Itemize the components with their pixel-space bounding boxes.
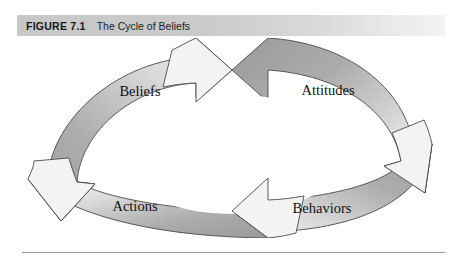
cycle-label-beliefs: Beliefs [119,83,160,99]
figure-container: FIGURE 7.1 The Cycle of Beliefs [0,0,462,268]
cycle-label-behaviors: Behaviors [293,200,352,216]
figure-title: The Cycle of Beliefs [97,20,190,32]
arrowhead-actions [28,158,95,221]
cycle-diagram: Beliefs Attitudes Behaviors Actions [0,38,462,238]
figure-bottom-rule [22,252,445,253]
figure-caption-bar: FIGURE 7.1 The Cycle of Beliefs [17,15,445,36]
cycle-diagram-svg: Beliefs Attitudes Behaviors Actions [0,38,462,238]
cycle-label-actions: Actions [112,198,157,214]
cycle-label-attitudes: Attitudes [301,82,355,98]
cycle-hub [118,94,344,214]
figure-number: FIGURE 7.1 [26,20,86,32]
